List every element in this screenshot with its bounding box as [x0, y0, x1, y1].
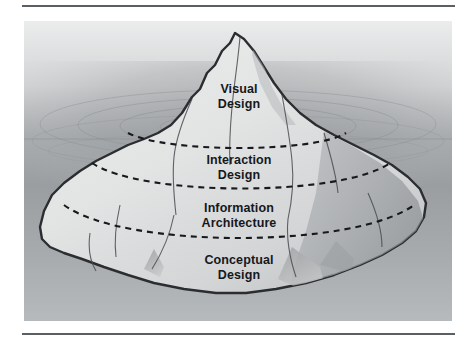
iceberg-illustration-panel: Visual Design Interaction Design Informa…	[24, 21, 452, 321]
top-horizontal-rule	[22, 5, 455, 7]
figure-page: Visual Design Interaction Design Informa…	[0, 0, 474, 339]
iceberg-diagram-svg	[24, 21, 452, 321]
bottom-horizontal-rule	[22, 333, 455, 335]
